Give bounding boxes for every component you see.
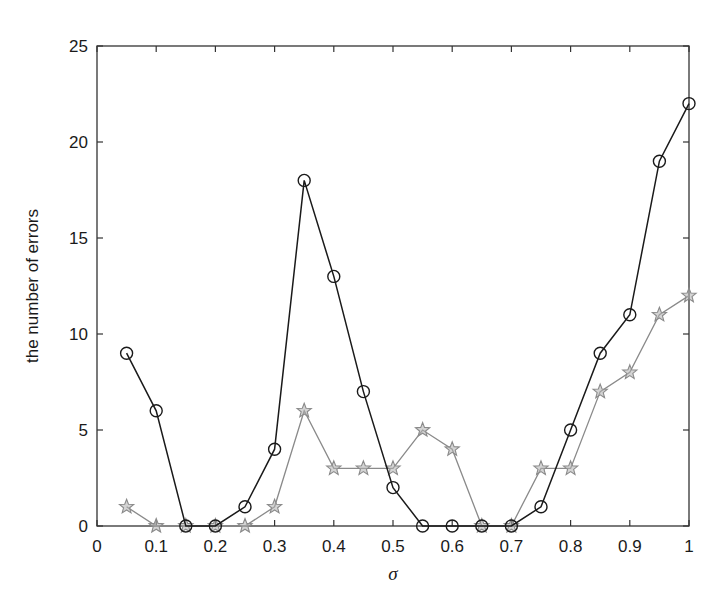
star-marker-icon <box>652 307 666 321</box>
x-tick-label: 0.7 <box>500 537 524 556</box>
plot-border <box>97 46 689 526</box>
x-tick-label: 0.5 <box>381 537 405 556</box>
x-tick-label: 0.4 <box>322 537 346 556</box>
plot-frame <box>97 46 689 526</box>
y-axis-label: the number of errors <box>23 209 42 363</box>
x-tick-label: 0.8 <box>559 537 583 556</box>
x-tick-label: 1 <box>684 537 693 556</box>
x-axis-tick-labels: 00.10.20.30.40.50.60.70.80.91 <box>92 537 693 556</box>
star-marker-icon <box>238 519 252 533</box>
series-circles <box>121 98 695 532</box>
star-marker-icon <box>119 499 133 513</box>
series-layer <box>119 98 696 532</box>
star-marker-icon <box>149 519 163 533</box>
series-line <box>127 104 689 526</box>
x-axis-label: σ <box>388 563 398 584</box>
y-axis-tick-labels: 0510152025 <box>69 37 88 536</box>
line-chart: 00.10.20.30.40.50.60.70.80.91 0510152025… <box>0 0 728 605</box>
star-marker-icon <box>415 423 429 437</box>
x-tick-label: 0 <box>92 537 101 556</box>
star-marker-icon <box>297 403 311 417</box>
axis-ticks <box>97 46 689 526</box>
star-marker-icon <box>267 499 281 513</box>
y-tick-label: 5 <box>79 421 88 440</box>
series-line <box>127 296 689 526</box>
star-marker-icon <box>593 384 607 398</box>
y-tick-label: 0 <box>79 517 88 536</box>
star-marker-icon <box>327 461 341 475</box>
x-tick-label: 0.1 <box>144 537 168 556</box>
series-stars <box>119 288 696 532</box>
star-marker-icon <box>563 461 577 475</box>
y-tick-label: 25 <box>69 37 88 56</box>
star-marker-icon <box>534 461 548 475</box>
x-tick-label: 0.6 <box>440 537 464 556</box>
x-tick-label: 0.3 <box>263 537 287 556</box>
y-tick-label: 10 <box>69 325 88 344</box>
x-tick-label: 0.9 <box>618 537 642 556</box>
y-tick-label: 20 <box>69 133 88 152</box>
star-marker-icon <box>445 442 459 456</box>
x-tick-label: 0.2 <box>204 537 228 556</box>
star-marker-icon <box>356 461 370 475</box>
y-tick-label: 15 <box>69 229 88 248</box>
star-marker-icon <box>623 365 637 379</box>
